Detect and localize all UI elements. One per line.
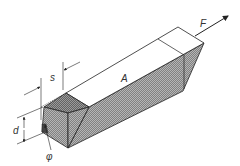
s-arrow-left <box>24 87 40 95</box>
area-label: A <box>120 73 128 84</box>
d-extension-bottom <box>17 133 43 144</box>
depth-label: d <box>13 125 19 136</box>
s-arrow-right <box>64 62 80 70</box>
force-label: F <box>200 18 207 29</box>
tool-bit-diagram: F A s d φ <box>0 0 240 166</box>
width-label: s <box>50 72 55 83</box>
angle-label: φ <box>46 151 53 162</box>
d-extension-top <box>17 107 43 118</box>
